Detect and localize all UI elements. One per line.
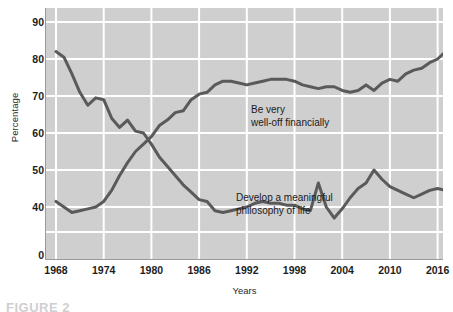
annotation-be-very-well-off: Be verywell-off financially: [251, 104, 329, 129]
x-axis-title: Years: [46, 285, 443, 296]
figure-root: Percentage 9080706050400 Be verywell-off…: [0, 0, 453, 312]
y-tick-label-80: 80: [4, 53, 44, 65]
annotation-welloff-line1: Be very: [251, 104, 285, 115]
annotation-develop-philosophy: Develop a meaningfulphilosophy of life: [236, 192, 333, 217]
x-axis-line: [45, 259, 443, 260]
x-tick-label-2016: 2016: [408, 264, 453, 276]
annotation-philosophy-line2: philosophy of life: [236, 205, 311, 216]
y-tick-label-40: 40: [4, 201, 44, 213]
chart-svg: [46, 8, 443, 259]
y-tick-label-0: 0: [4, 249, 44, 261]
figure-caption: FIGURE 2: [6, 300, 70, 312]
y-tick-label-60: 60: [4, 127, 44, 139]
plot-area: Be verywell-off financially Develop a me…: [46, 8, 443, 259]
y-tick-label-70: 70: [4, 90, 44, 102]
y-tick-label-50: 50: [4, 164, 44, 176]
y-tick-label-90: 90: [4, 16, 44, 28]
annotation-philosophy-line1: Develop a meaningful: [236, 192, 333, 203]
annotation-welloff-line2: well-off financially: [251, 117, 329, 128]
